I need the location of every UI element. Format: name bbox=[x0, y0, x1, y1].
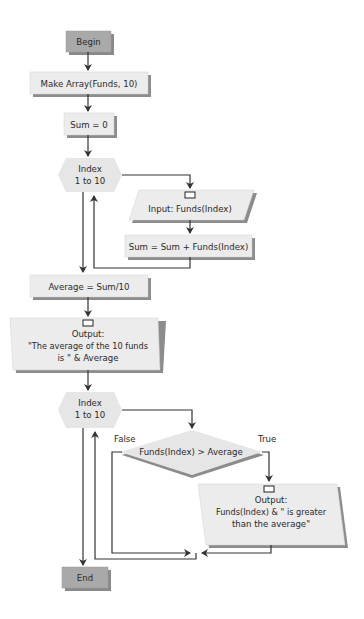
make-array-node: Make Array(Funds, 10) bbox=[30, 72, 151, 97]
loop1-node: Index 1 to 10 bbox=[58, 158, 122, 192]
sum-add-node: Sum = Sum + Funds(Index) bbox=[125, 235, 255, 260]
loop2-line1: Index bbox=[78, 398, 102, 408]
loop1-line2: 1 to 10 bbox=[75, 176, 106, 186]
false-branch-label: False bbox=[114, 434, 136, 444]
loop2-node: Index 1 to 10 bbox=[58, 392, 122, 428]
output1-node: Output: "The average of the 10 funds is … bbox=[10, 318, 166, 373]
output2-line1: Output: bbox=[255, 495, 288, 505]
make-array-label: Make Array(Funds, 10) bbox=[41, 79, 138, 89]
flowchart-canvas: Begin Make Array(Funds, 10) Sum = 0 Inde… bbox=[0, 0, 364, 619]
output2-display-icon bbox=[264, 486, 274, 492]
input-label: Input: Funds(Index) bbox=[148, 204, 232, 214]
sum-add-label: Sum = Sum + Funds(Index) bbox=[129, 242, 249, 252]
begin-label: Begin bbox=[76, 37, 100, 47]
output2-line2: Funds(Index) & " is greater bbox=[216, 507, 327, 517]
begin-node: Begin bbox=[66, 31, 114, 55]
sum-init-label: Sum = 0 bbox=[70, 120, 107, 130]
loop2-line2: 1 to 10 bbox=[75, 410, 106, 420]
input-device-icon bbox=[185, 192, 195, 198]
input-node: Input: Funds(Index) bbox=[129, 190, 257, 223]
sum-init-node: Sum = 0 bbox=[64, 113, 117, 138]
output1-line3: is " & Average bbox=[57, 353, 118, 363]
loop1-line1: Index bbox=[78, 164, 102, 174]
end-node: End bbox=[62, 567, 111, 591]
output1-line1: Output: bbox=[72, 329, 105, 339]
arrow-loop2-to-decision bbox=[122, 410, 192, 428]
output2-line3: than the average" bbox=[232, 519, 310, 529]
decision-label: Funds(Index) > Average bbox=[139, 447, 243, 457]
output1-line2: "The average of the 10 funds bbox=[28, 341, 148, 351]
end-label: End bbox=[77, 573, 93, 583]
output2-node: Output: Funds(Index) & " is greater than… bbox=[198, 484, 348, 548]
decision-node: Funds(Index) > Average bbox=[120, 430, 264, 478]
arrow-true-to-output2 bbox=[262, 452, 269, 481]
average-label: Average = Sum/10 bbox=[48, 282, 129, 292]
true-branch-label: True bbox=[257, 434, 276, 444]
average-node: Average = Sum/10 bbox=[30, 275, 151, 300]
output1-display-icon bbox=[83, 320, 93, 326]
arrow-loop1-to-input bbox=[122, 175, 190, 188]
